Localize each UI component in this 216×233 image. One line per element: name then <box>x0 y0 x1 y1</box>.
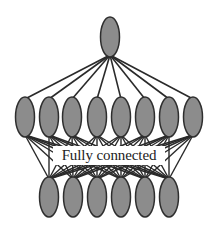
middle-node-3 <box>88 97 107 137</box>
edge <box>110 55 193 99</box>
network-diagram <box>0 0 216 233</box>
bottom-node-2 <box>88 177 107 217</box>
middle-node-4 <box>112 97 131 137</box>
middle-node-1 <box>40 97 59 137</box>
bottom-node-0 <box>40 177 59 217</box>
middle-node-5 <box>136 97 155 137</box>
middle-node-2 <box>63 97 82 137</box>
bottom-node-1 <box>64 177 83 217</box>
label-text: Fully connected <box>62 147 157 164</box>
edge <box>49 55 110 99</box>
middle-node-0 <box>16 97 35 137</box>
edge <box>25 55 110 99</box>
middle-node-6 <box>160 97 179 137</box>
bottom-node-4 <box>136 177 155 217</box>
bottom-node-5 <box>160 177 179 217</box>
middle-node-7 <box>184 97 203 137</box>
network-nodes <box>16 17 203 217</box>
top-node-0 <box>101 17 120 57</box>
bottom-node-3 <box>112 177 131 217</box>
fully-connected-label: Fully connected <box>53 146 165 165</box>
